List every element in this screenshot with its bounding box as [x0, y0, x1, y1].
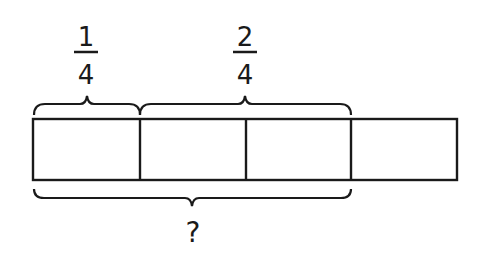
- tape-diagram: 1 4 2 4 ?: [0, 0, 480, 256]
- fraction-one-fourth: 1 4: [74, 22, 98, 90]
- top-brace-one-fourth: [34, 96, 140, 115]
- fraction-two-fourths: 2 4: [233, 22, 257, 90]
- denominator: 4: [78, 60, 95, 90]
- numerator: 1: [78, 22, 95, 52]
- denominator: 4: [237, 60, 254, 90]
- tape-bar: [33, 119, 457, 180]
- numerator: 2: [237, 22, 254, 52]
- bottom-brace-unknown: [34, 189, 351, 206]
- unknown-label: ?: [186, 216, 201, 249]
- top-brace-two-fourths: [140, 96, 351, 115]
